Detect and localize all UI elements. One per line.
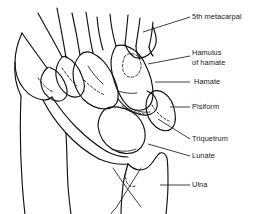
pisiform-bone — [146, 91, 175, 131]
ulna-bone — [111, 153, 168, 214]
trapezoid-bone — [56, 56, 84, 97]
label-lunate: Lunate — [192, 151, 215, 160]
leader-5th-metacarpal — [143, 17, 190, 32]
leader-hamulus-of-hamate — [148, 56, 190, 64]
trapezium-bone — [41, 67, 67, 101]
label-hamulus-of-hamate-line1: Hamulus — [192, 48, 222, 57]
anatomy-figure: 5th metacarpal Hamulus of hamate Hamate … — [0, 0, 257, 214]
scaphoid-and-thenar-outline — [15, 33, 53, 100]
label-5th-metacarpal: 5th metacarpal — [192, 12, 242, 21]
label-hamate: Hamate — [194, 77, 220, 86]
label-pisiform: Pisiform — [192, 102, 219, 111]
radius-shaft — [20, 96, 71, 214]
metacarpal-shafts — [22, 8, 153, 68]
hamulus-outline — [123, 54, 141, 78]
label-ulna: Ulna — [192, 180, 207, 189]
leader-triquetrum — [158, 119, 190, 139]
leader-lunate — [148, 144, 190, 156]
label-triquetrum: Triquetrum — [192, 134, 228, 143]
label-hamulus-of-hamate-line2: of hamate — [192, 58, 225, 67]
